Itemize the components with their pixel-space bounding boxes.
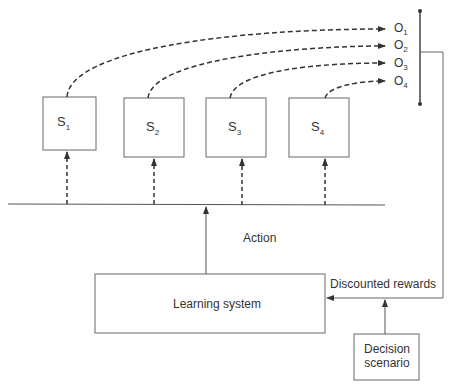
decision-label-line1: Decision [354, 342, 420, 356]
action-label: Action [243, 231, 276, 245]
outcome-label-1: O1 [394, 21, 408, 37]
learning-system-label: Learning system [173, 297, 261, 311]
outcome-label-2: O2 [394, 38, 408, 54]
state-label-2: S2 [146, 119, 159, 137]
transition-s2-o2 [148, 46, 385, 98]
transition-s1-o1 [67, 29, 385, 97]
action-bus-line [8, 204, 385, 205]
transition-s4-o4 [325, 81, 385, 98]
outcome-label-3: O3 [394, 56, 408, 72]
decision-label-line2: scenario [354, 356, 420, 370]
state-label-4: S4 [311, 119, 324, 137]
decision-scenario-label: Decision scenario [354, 342, 420, 370]
transition-s3-o3 [230, 63, 385, 98]
rewards-label: Discounted rewards [330, 277, 436, 291]
reward-feedback-line [327, 52, 443, 298]
state-label-1: S1 [57, 114, 70, 132]
state-label-3: S3 [228, 119, 241, 137]
diagram-canvas [0, 0, 452, 390]
outcome-label-4: O4 [394, 74, 408, 90]
